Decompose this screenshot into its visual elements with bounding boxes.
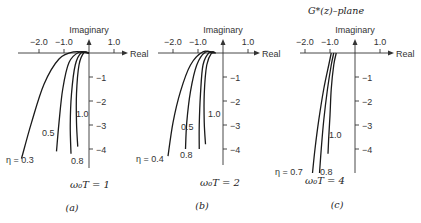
y-tick-label: −4 [362, 145, 372, 155]
y-tick-label: −4 [96, 145, 106, 155]
imaginary-axis-arrow-icon [221, 39, 226, 45]
x-tick-label: −2.0 [164, 37, 182, 47]
series-curve-0.7 [313, 53, 332, 173]
series-label: η = 0.7 [275, 167, 303, 177]
y-tick-label: −3 [362, 121, 372, 131]
panel-label: (c) [331, 199, 344, 210]
imaginary-axis-arrow-icon [353, 39, 358, 45]
series-curve-0.8 [70, 52, 89, 154]
y-tick-label: −1 [230, 73, 240, 83]
parameter-label: ω₀T = 4 [305, 175, 345, 186]
x-tick-label: −1.0 [189, 37, 207, 47]
real-axis-arrow-icon [122, 51, 128, 56]
y-tick-label: −2 [230, 97, 240, 107]
series-label: 1.0 [329, 130, 342, 140]
series-label: 0.8 [71, 156, 84, 166]
parameter-label: ω₀T = 2 [200, 177, 240, 188]
y-tick-label: −1 [96, 73, 106, 83]
series-label: η = 0.3 [6, 155, 34, 165]
panel-label: (a) [65, 202, 78, 213]
series-label: 0.5 [181, 122, 194, 132]
series-label: η = 0.4 [136, 154, 164, 164]
x-tick-label: 1.0 [242, 37, 255, 47]
real-axis-arrow-icon [388, 51, 394, 56]
nyquist-figure: G*(z)–plane RealImaginary−2.0−1.01.0−1−2… [0, 0, 421, 223]
series-curve-0.5 [57, 52, 90, 152]
x-tick-label: 1.0 [108, 37, 121, 47]
series-label: 0.8 [180, 150, 193, 160]
panel-b: RealImaginary−2.0−1.01.0−1−2−3−4η = 0.40… [136, 25, 281, 211]
y-tick-label: −4 [230, 145, 240, 155]
x-tick-label: −2.0 [296, 37, 314, 47]
y-axis-label: Imaginary [335, 25, 375, 35]
series-curve-1.0 [76, 52, 89, 147]
x-tick-label: −1.0 [55, 37, 73, 47]
y-tick-label: −2 [362, 97, 372, 107]
y-tick-label: −2 [96, 97, 106, 107]
series-curve-1.0 [204, 52, 215, 144]
y-tick-label: −1 [362, 73, 372, 83]
panel-c: RealImaginary−2.0−1.01.0−1−2−3−4η = 0.70… [275, 25, 415, 210]
y-tick-label: −3 [230, 121, 240, 131]
y-tick-label: −3 [96, 121, 106, 131]
x-axis-label: Real [396, 49, 415, 59]
series-label: 1.0 [76, 109, 89, 119]
real-axis-arrow-icon [254, 51, 260, 56]
x-axis-label: Real [262, 49, 281, 59]
panel-a: RealImaginary−2.0−1.01.0−1−2−3−4η = 0.30… [6, 25, 149, 213]
parameter-label: ω₀T = 1 [70, 179, 110, 190]
x-tick-label: −1.0 [321, 37, 339, 47]
series-label: 0.5 [42, 128, 55, 138]
x-tick-label: −2.0 [30, 37, 48, 47]
series-label: 1.0 [208, 109, 221, 119]
x-axis-label: Real [130, 49, 149, 59]
x-tick-label: 1.0 [374, 37, 387, 47]
series-curve-0.8 [199, 52, 215, 149]
y-axis-label: Imaginary [203, 25, 243, 35]
imaginary-axis-arrow-icon [87, 39, 92, 45]
y-axis-label: Imaginary [69, 25, 109, 35]
series-curve-0.8 [320, 53, 334, 173]
panel-label: (b) [195, 200, 209, 211]
figure-title: G*(z)–plane [308, 5, 364, 16]
